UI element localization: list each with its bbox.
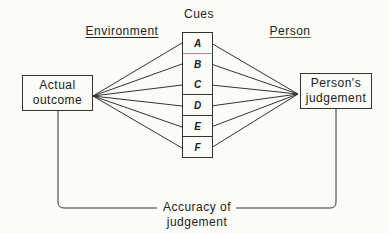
actual-outcome-line1: Actual: [39, 78, 75, 93]
cue-e: E: [182, 116, 213, 137]
cue-a: A: [182, 32, 213, 54]
actual-outcome-line2: outcome: [33, 93, 83, 108]
accuracy-label: Accuracy of judgement: [155, 200, 239, 230]
environment-heading: Environment: [82, 24, 162, 39]
accuracy-line1: Accuracy of: [155, 200, 239, 215]
persons-judgement-line1: Person's: [311, 76, 361, 91]
persons-judgement-line2: judgement: [306, 91, 367, 106]
cue-f: F: [182, 137, 213, 158]
cue-c: C: [182, 74, 213, 95]
actual-outcome-box: Actual outcome: [22, 75, 93, 111]
accuracy-line2: judgement: [155, 215, 239, 230]
person-heading: Person: [265, 24, 315, 39]
cues-title: Cues: [184, 7, 214, 22]
cue-d: D: [182, 95, 213, 116]
persons-judgement-box: Person's judgement: [300, 73, 372, 109]
cue-b: B: [182, 53, 213, 75]
